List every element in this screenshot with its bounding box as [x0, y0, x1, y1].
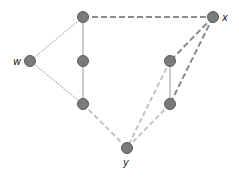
edge-b1-y: [127, 61, 170, 148]
node-y: [122, 143, 133, 154]
edges: [30, 17, 213, 148]
label-x: x: [221, 12, 228, 23]
edge-x-b2: [170, 17, 213, 104]
edge-x-b1: [170, 17, 213, 61]
node-a1: [78, 12, 89, 23]
label-y: y: [122, 157, 130, 168]
node-a3: [78, 99, 89, 110]
edge-w-a3: [30, 61, 83, 104]
node-labels: w x y: [13, 12, 228, 168]
node-b2: [165, 99, 176, 110]
nodes: [25, 12, 219, 154]
node-a2: [78, 56, 89, 67]
edge-a3-y: [83, 104, 127, 148]
edge-w-a1: [30, 17, 83, 61]
graph-diagram: w x y: [0, 0, 239, 178]
edge-b2-y: [127, 104, 170, 148]
label-w: w: [13, 56, 22, 67]
node-x: [208, 12, 219, 23]
node-b1: [165, 56, 176, 67]
node-w: [25, 56, 36, 67]
